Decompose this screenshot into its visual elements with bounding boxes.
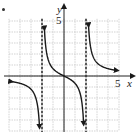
x-axis-label: x	[127, 78, 132, 89]
y-tick-5-label: 5	[56, 15, 62, 26]
function-graph	[0, 0, 137, 134]
axes	[4, 6, 133, 132]
x-tick-5-label: 5	[115, 78, 121, 89]
